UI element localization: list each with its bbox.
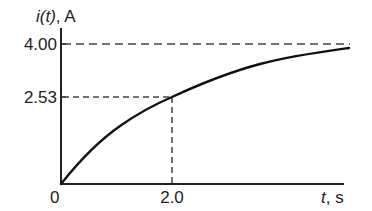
x-tick-label-2: 2.0 — [160, 188, 184, 207]
current-curve — [61, 48, 349, 184]
y-tick-label-253: 2.53 — [24, 88, 57, 107]
y-axis-unit: , A — [56, 7, 77, 26]
y-tick-label-4: 4.00 — [24, 35, 57, 54]
x-axis-unit: , s — [326, 188, 344, 207]
x-axis-label: t, s — [321, 188, 344, 207]
y-axis-label: i(t), A — [36, 7, 76, 26]
current-vs-time-chart: i(t), A 4.00 2.53 0 2.0 t, s — [0, 0, 372, 211]
y-axis-func: i(t) — [36, 7, 56, 26]
origin-label: 0 — [50, 188, 59, 207]
